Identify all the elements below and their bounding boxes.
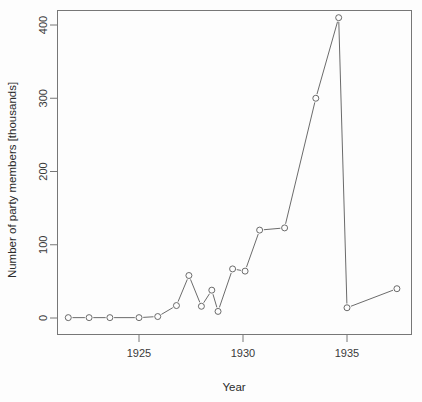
data-point-marker (257, 227, 263, 233)
data-point-marker (215, 308, 221, 314)
y-tick-label: 200 (37, 162, 49, 180)
data-point-marker (394, 286, 400, 292)
data-point-marker (86, 315, 92, 321)
data-point-marker (107, 315, 113, 321)
y-axis-title: Number of party members [thousands] (6, 82, 18, 278)
data-point-marker (242, 268, 248, 274)
y-tick-label: 0 (37, 315, 49, 321)
data-point-marker (65, 315, 71, 321)
data-point-marker (336, 15, 342, 21)
y-tick-label: 400 (37, 16, 49, 34)
plot-frame (58, 11, 412, 335)
x-axis-title: Year (222, 381, 245, 393)
data-series (65, 15, 400, 321)
y-axis: 0100200300400 (37, 16, 57, 321)
y-tick-label: 100 (37, 236, 49, 254)
x-axis: 192519301935 (127, 335, 359, 359)
data-point-marker (136, 315, 142, 321)
x-tick-label: 1930 (231, 347, 255, 359)
x-tick-label: 1935 (335, 347, 359, 359)
data-point-marker (313, 95, 319, 101)
chart-figure: 0100200300400 192519301935 Year Number o… (0, 0, 422, 402)
data-point-marker (155, 314, 161, 320)
y-tick-label: 300 (37, 89, 49, 107)
chart-canvas: 0100200300400 192519301935 Year Number o… (0, 0, 422, 402)
data-point-marker (198, 303, 204, 309)
x-tick-label: 1925 (127, 347, 151, 359)
data-point-marker (282, 225, 288, 231)
series-line (72, 22, 393, 318)
data-point-marker (173, 303, 179, 309)
data-point-marker (230, 266, 236, 272)
series-markers (65, 15, 400, 321)
data-point-marker (209, 287, 215, 293)
data-point-marker (344, 305, 350, 311)
data-point-marker (186, 273, 192, 279)
